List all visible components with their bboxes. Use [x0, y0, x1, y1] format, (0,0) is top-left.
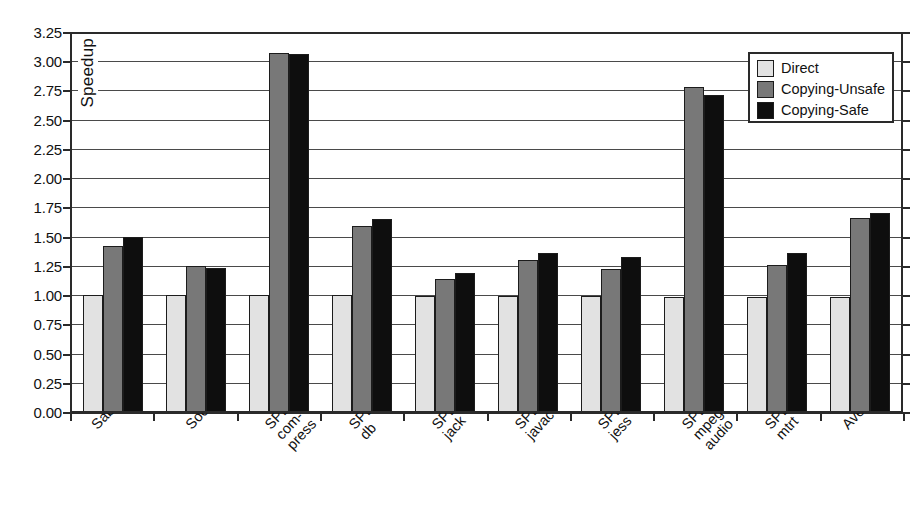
bar [538, 253, 558, 412]
y-axis-tick-label: 0.00 [18, 405, 62, 420]
legend-swatch-icon [757, 81, 774, 98]
bar [103, 246, 123, 412]
x-axis-line [70, 411, 903, 413]
y-axis-tick-mark [63, 237, 72, 239]
bar [830, 297, 850, 412]
y-axis-tick-mark-right [901, 295, 910, 297]
x-axis-category-cell: SPEC db [320, 418, 403, 513]
y-axis-tick-label: 0.50 [18, 347, 62, 362]
y-axis-tick-label: 2.00 [18, 171, 62, 186]
speedup-bar-chart: 3.253.002.752.502.252.001.751.501.251.00… [0, 0, 924, 515]
bar [372, 219, 392, 412]
y-axis-tick-mark [63, 207, 72, 209]
y-axis-tick-mark-right [901, 237, 910, 239]
y-axis-title: Speedup [78, 36, 98, 109]
x-axis-category-cell: SPEC jack [403, 418, 486, 513]
x-axis-category-cell: Soot [153, 418, 236, 513]
y-axis-tick-mark [63, 32, 72, 34]
bar-group [569, 32, 652, 412]
bar [664, 297, 684, 412]
legend-swatch-icon [757, 102, 774, 119]
bar [704, 95, 724, 412]
y-axis-tick-label: 0.25 [18, 376, 62, 391]
y-axis-tick-mark-right [901, 61, 910, 63]
bar [289, 54, 309, 412]
y-axis-tick-mark [63, 178, 72, 180]
x-axis-category-cell: Average [820, 418, 903, 513]
legend-swatch-icon [757, 60, 774, 77]
bar [601, 269, 621, 412]
y-axis-tick-mark-right [901, 178, 910, 180]
x-axis-category-cell: SPEC mpeg audio [653, 418, 736, 513]
bar [123, 237, 143, 412]
bar-group [321, 32, 404, 412]
x-axis-tick-mark [903, 412, 905, 421]
x-axis-category-cell: SPEC mtrt [736, 418, 819, 513]
legend-item: Direct [757, 58, 886, 78]
y-axis-tick-label: 3.00 [18, 54, 62, 69]
legend-item: Copying-Unsafe [757, 79, 886, 99]
y-axis-tick-mark-right [901, 324, 910, 326]
bar [870, 213, 890, 412]
y-axis-tick-mark-right [901, 32, 910, 34]
bar [249, 295, 269, 412]
bar [767, 265, 787, 412]
x-axis-category-cell: SPEC javac [486, 418, 569, 513]
bar [684, 87, 704, 412]
legend: DirectCopying-UnsafeCopying-Safe [748, 52, 894, 123]
bar [415, 296, 435, 412]
y-axis-tick-mark-right [901, 207, 910, 209]
y-axis-tick-mark-right [901, 266, 910, 268]
y-axis-tick-label: 1.25 [18, 259, 62, 274]
bar [206, 268, 226, 412]
y-axis-tick-label: 2.50 [18, 113, 62, 128]
bar [747, 297, 767, 412]
bar [332, 295, 352, 412]
y-axis-tick-label: 1.00 [18, 288, 62, 303]
bar [352, 226, 372, 412]
bar [455, 273, 475, 412]
y-axis-tick-label: 3.25 [18, 25, 62, 40]
x-axis-category-cell: SableCC [70, 418, 153, 513]
y-axis-tick-label: 1.50 [18, 230, 62, 245]
y-axis-tick-mark-right [901, 120, 910, 122]
y-axis-tick-label: 2.75 [18, 83, 62, 98]
y-axis-tick-mark [63, 266, 72, 268]
legend-item: Copying-Safe [757, 100, 886, 120]
y-axis-tick-label: 1.75 [18, 200, 62, 215]
bar [850, 218, 870, 412]
bar [787, 253, 807, 412]
bar [621, 257, 641, 413]
y-axis-tick-mark [63, 120, 72, 122]
y-axis-tick-mark [63, 354, 72, 356]
y-axis-tick-label: 0.75 [18, 317, 62, 332]
y-axis-tick-mark-right [901, 383, 910, 385]
bar [83, 295, 103, 412]
y-axis-tick-mark [63, 61, 72, 63]
y-axis-tick-mark-right [901, 149, 910, 151]
legend-item-label: Direct [781, 60, 819, 76]
bar-group [487, 32, 570, 412]
bar [166, 295, 186, 412]
y-axis-tick-mark [63, 149, 72, 151]
y-axis-tick-mark [63, 383, 72, 385]
bar-group [238, 32, 321, 412]
y-axis-tick-mark-right [901, 354, 910, 356]
bar [269, 53, 289, 412]
y-axis-tick-mark [63, 90, 72, 92]
bar [186, 266, 206, 412]
bar [435, 279, 455, 412]
bar-group [155, 32, 238, 412]
bar [518, 260, 538, 412]
bar [498, 296, 518, 412]
legend-item-label: Copying-Safe [781, 102, 869, 118]
y-axis-tick-mark-right [901, 90, 910, 92]
legend-item-label: Copying-Unsafe [781, 81, 885, 97]
y-axis-tick-labels: 3.253.002.752.502.252.001.751.501.251.00… [6, 0, 62, 515]
x-axis-category-labels: SableCCSootSPEC com- pressSPEC dbSPEC ja… [70, 418, 903, 513]
bar [581, 296, 601, 412]
bar-group [404, 32, 487, 412]
y-axis-tick-mark [63, 295, 72, 297]
y-axis-tick-mark [63, 324, 72, 326]
bar-group [652, 32, 735, 412]
